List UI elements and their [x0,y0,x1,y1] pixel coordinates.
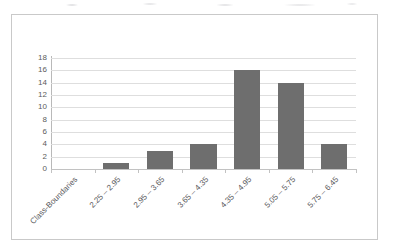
bar [190,144,216,169]
bar-slot [95,58,139,169]
bar-slot [51,58,95,169]
x-category-label: 5.75 – 6.45 [306,175,341,210]
y-tick-label: 2 [25,153,47,161]
y-tick-label: 0 [25,165,47,173]
chart-frame: 181614121086420 Class-Boundaries2.25 – 2… [11,14,378,240]
y-tick-label: 18 [25,54,47,62]
bar [147,151,173,170]
bar [278,83,304,169]
y-axis-tick-labels: 181614121086420 [23,58,47,169]
bar [234,70,260,169]
bar-slot [269,58,313,169]
y-tick-label: 12 [25,91,47,99]
scan-artifact-strip [0,0,394,13]
y-tick-label: 8 [25,116,47,124]
x-category-label: Class-Boundaries [28,175,79,226]
y-tick-label: 4 [25,140,47,148]
bar-slot [138,58,182,169]
x-category-label: 2.95 – 3.65 [132,175,167,210]
x-category-label: 2.25 – 2.95 [88,175,123,210]
x-tick-mark [356,169,357,173]
bar-slot [225,58,269,169]
x-category-label: 3.65 – 4.35 [175,175,210,210]
y-tick-label: 14 [25,79,47,87]
bar-slot [182,58,226,169]
x-category-label: 5.05 – 5.75 [262,175,297,210]
plot-area [51,58,356,169]
y-tick-label: 10 [25,103,47,111]
x-category-label: 4.35 – 4.95 [219,175,254,210]
y-tick-label: 6 [25,128,47,136]
bar [321,144,347,169]
y-tick-label: 16 [25,66,47,74]
bar-slot [312,58,356,169]
x-axis-category-labels: Class-Boundaries2.25 – 2.952.95 – 3.653.… [51,173,356,239]
